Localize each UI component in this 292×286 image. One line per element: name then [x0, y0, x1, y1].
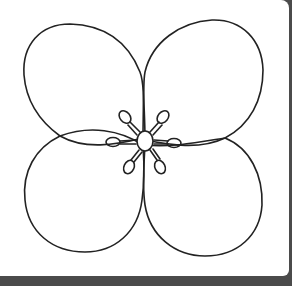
flower-drawing [0, 0, 289, 276]
petal-top-left [24, 24, 144, 145]
flower-center [137, 131, 153, 151]
coloring-page-card: Coloring page: four-petal flower outline… [0, 0, 289, 276]
petal-bottom-left [25, 130, 144, 252]
petal-bottom-right [143, 138, 262, 256]
